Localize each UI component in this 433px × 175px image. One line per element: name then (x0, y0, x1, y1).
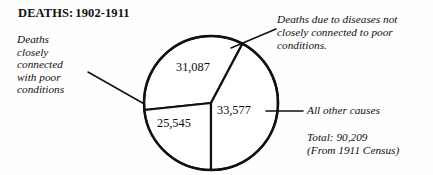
pie-slices-group (144, 36, 278, 170)
annotation-line: with poor (17, 71, 64, 84)
annotation-total-and-source: Total: 90,209 (From 1911 Census) (307, 131, 399, 157)
annotation-all-other-causes: All other causes (307, 104, 380, 117)
annotation-not-poor-conditions: Deaths due to diseases not closely conne… (277, 13, 398, 53)
annotation-line: connected (17, 58, 64, 71)
leader-line-top-right (231, 29, 276, 48)
pie-chart-figure: DEATHS:1902-1911 31,087 25,545 33,577 De… (0, 0, 433, 175)
annotation-poor-conditions: Deathscloselyconnectedwith poorcondition… (17, 33, 64, 96)
annotation-line: conditions (17, 83, 64, 96)
annotation-line: Deaths (17, 33, 64, 46)
slice-value-label: 25,545 (157, 116, 191, 131)
slice-value-label: 33,577 (217, 103, 251, 118)
leader-line-left (88, 72, 144, 104)
annotation-line: closely (17, 46, 64, 59)
slice-value-label: 31,087 (176, 60, 210, 75)
